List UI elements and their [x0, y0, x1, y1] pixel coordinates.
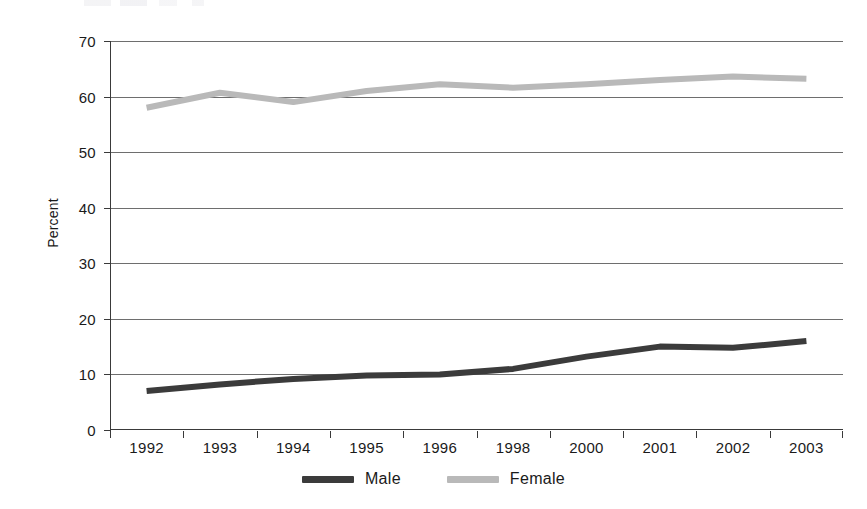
x-tick-label-2001: 2001 [642, 439, 677, 456]
series-lines [110, 41, 843, 430]
x-tick-label-2000: 2000 [569, 439, 604, 456]
x-tick-mark-10 [842, 431, 843, 438]
legend-item-female: Female [447, 470, 565, 488]
legend-label-female: Female [510, 470, 565, 488]
y-tick-label-50: 50 [12, 144, 96, 161]
x-tick-mark-7 [623, 431, 624, 438]
y-tick-label-40: 40 [12, 199, 96, 216]
y-tick-label-10: 10 [12, 366, 96, 383]
x-tick-mark-8 [696, 431, 697, 438]
x-tick-mark-9 [770, 431, 771, 438]
legend-swatch-female [447, 476, 499, 483]
series-line-female [147, 77, 807, 108]
x-tick-label-2003: 2003 [789, 439, 824, 456]
x-tick-label-1992: 1992 [129, 439, 164, 456]
x-tick-label-1994: 1994 [276, 439, 311, 456]
x-tick-mark-6 [550, 431, 551, 438]
x-tick-mark-0 [110, 431, 111, 438]
x-tick-label-2002: 2002 [716, 439, 751, 456]
y-tick-label-30: 30 [12, 255, 96, 272]
y-tick-label-60: 60 [12, 88, 96, 105]
plot-area: 010203040506070 [110, 41, 843, 430]
x-tick-mark-5 [477, 431, 478, 438]
x-tick-mark-2 [257, 431, 258, 438]
y-tick-label-20: 20 [12, 310, 96, 327]
x-axis-ticks: 1992199319941995199619982000200120022003 [110, 431, 843, 459]
x-tick-label-1996: 1996 [423, 439, 458, 456]
y-tick-label-70: 70 [12, 33, 96, 50]
x-tick-mark-3 [330, 431, 331, 438]
x-tick-mark-4 [403, 431, 404, 438]
x-tick-mark-1 [183, 431, 184, 438]
legend-label-male: Male [365, 470, 401, 488]
series-line-male [147, 341, 807, 391]
x-tick-label-1993: 1993 [203, 439, 238, 456]
chart-legend: Male Female [0, 470, 867, 488]
y-tick-label-0: 0 [12, 422, 96, 439]
x-tick-label-1995: 1995 [349, 439, 384, 456]
legend-swatch-male [302, 476, 354, 483]
cropped-title-artifact [84, 0, 234, 6]
line-chart: Percent 010203040506070 1992199319941995… [0, 0, 867, 509]
x-tick-label-1998: 1998 [496, 439, 531, 456]
legend-item-male: Male [302, 470, 401, 488]
